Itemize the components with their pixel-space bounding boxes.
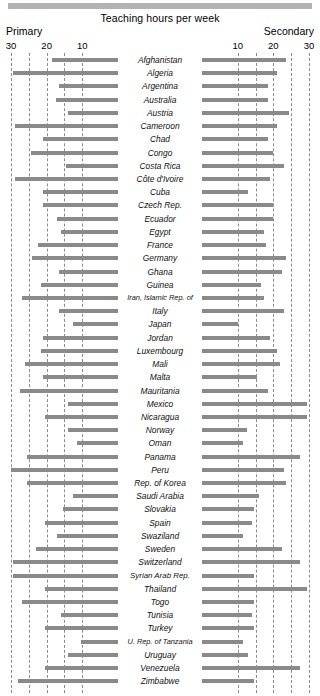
primary-bar [45, 415, 118, 419]
chart-row: Saudi Arabia [0, 489, 320, 503]
country-label: Norway [118, 424, 202, 436]
primary-bar [73, 322, 118, 326]
chart-row: Slovakia [0, 502, 320, 516]
secondary-bar [202, 362, 280, 366]
primary-bar [68, 111, 118, 115]
primary-bar [25, 362, 118, 366]
country-label: Ecuador [118, 213, 202, 225]
secondary-bar [202, 151, 273, 155]
primary-bar [77, 441, 118, 445]
chart-row: Mali [0, 357, 320, 371]
secondary-bar [202, 574, 254, 578]
chart-row: Spain [0, 516, 320, 530]
chart-row: Norway [0, 423, 320, 437]
secondary-bar [202, 71, 277, 75]
country-label: Spain [118, 517, 202, 529]
chart-row: Swaziland [0, 529, 320, 543]
country-label: Guinea [118, 279, 202, 291]
secondary-bar [202, 177, 270, 181]
primary-bar [31, 151, 118, 155]
country-label: Argentina [118, 80, 202, 92]
chart-row: Venezuela [0, 661, 320, 675]
chart-row: Peru [0, 463, 320, 477]
chart-row: Côte d'Ivoire [0, 172, 320, 186]
country-label: Egypt [118, 226, 202, 238]
country-label: Zimbabwe [118, 675, 202, 687]
country-label: Australia [118, 94, 202, 106]
primary-bar [13, 71, 118, 75]
country-label: Congo [118, 147, 202, 159]
primary-bar [18, 679, 118, 683]
primary-bar [45, 521, 118, 525]
chart-row: France [0, 238, 320, 252]
axis-tick-labels: 302010102030 [0, 40, 320, 52]
secondary-bar [202, 547, 282, 551]
secondary-bar [202, 203, 273, 207]
secondary-bar [202, 587, 307, 591]
secondary-bar [202, 507, 254, 511]
primary-bar [59, 270, 118, 274]
chart-row: Italy [0, 304, 320, 318]
chart-row: Syrian Arab Rep. [0, 569, 320, 583]
chart-row: Jordan [0, 331, 320, 345]
country-label: Uruguay [118, 649, 202, 661]
primary-bar [45, 666, 118, 670]
country-label: Switzerland [118, 556, 202, 568]
primary-bar [41, 283, 118, 287]
primary-bar [13, 560, 118, 564]
secondary-bar [202, 98, 268, 102]
country-label: Togo [118, 596, 202, 608]
primary-bar [43, 375, 118, 379]
secondary-bar [202, 124, 277, 128]
secondary-bar [202, 84, 268, 88]
secondary-bar [202, 270, 282, 274]
secondary-bar [202, 322, 238, 326]
secondary-bar [202, 441, 243, 445]
secondary-axis-caption: Secondary [264, 25, 314, 37]
primary-bar [11, 468, 118, 472]
chart-row: Czech Rep. [0, 198, 320, 212]
chart-row: Thailand [0, 582, 320, 596]
primary-bar [45, 626, 118, 630]
chart-rows: AfghanistanAlgeriaArgentinaAustraliaAust… [0, 53, 320, 693]
country-label: Austria [118, 107, 202, 119]
country-label: Mauritania [118, 385, 202, 397]
secondary-bar [202, 375, 257, 379]
left-tick-10: 10 [77, 40, 88, 51]
country-label: Tunisia [118, 609, 202, 621]
secondary-bar [202, 283, 261, 287]
country-label: Italy [118, 305, 202, 317]
secondary-bar [202, 190, 248, 194]
country-label: Oman [118, 437, 202, 449]
primary-bar [38, 243, 118, 247]
secondary-bar [202, 137, 268, 141]
primary-bar [68, 428, 118, 432]
chart-row: Mexico [0, 397, 320, 411]
chart-row: Japan [0, 317, 320, 331]
chart-row: Congo [0, 146, 320, 160]
secondary-bar [202, 653, 248, 657]
primary-bar [41, 349, 118, 353]
secondary-bar [202, 111, 289, 115]
country-label: Sweden [118, 543, 202, 555]
chart-row: Luxembourg [0, 344, 320, 358]
secondary-bar [202, 640, 243, 644]
country-label: Japan [118, 318, 202, 330]
chart-row: Uruguay [0, 648, 320, 662]
primary-bar [63, 507, 118, 511]
primary-bar [45, 587, 118, 591]
primary-bar [20, 389, 118, 393]
country-label: Slovakia [118, 503, 202, 515]
secondary-bar [202, 428, 247, 432]
chart-row: Germany [0, 251, 320, 265]
primary-bar [27, 481, 118, 485]
chart-row: Togo [0, 595, 320, 609]
country-label: France [118, 239, 202, 251]
chart-row: U. Rep. of Tanzania [0, 635, 320, 649]
primary-bar [22, 600, 118, 604]
country-label: Malta [118, 371, 202, 383]
chart-row: Rep. of Korea [0, 476, 320, 490]
right-tick-10: 10 [232, 40, 243, 51]
secondary-bar [202, 468, 284, 472]
primary-bar [32, 256, 118, 260]
